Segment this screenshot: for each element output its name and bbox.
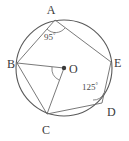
degree-symbol-D: ° <box>96 82 99 88</box>
radius-OB <box>17 63 64 68</box>
angle-arc-at-O <box>52 67 59 80</box>
point-label-A: A <box>47 3 56 17</box>
chord-AE <box>55 20 111 62</box>
center-point-marker <box>62 66 66 70</box>
radius-OC <box>47 68 64 114</box>
geometry-canvas: A B C D E O 95° 125° <box>0 0 129 141</box>
point-label-D: D <box>107 105 116 119</box>
angle-label-A: 95° <box>44 32 56 42</box>
chord-BC <box>17 63 47 114</box>
angle-arc-at-D <box>93 93 104 100</box>
point-label-C: C <box>42 123 50 137</box>
geometry-figure: A B C D E O 95° 125° <box>0 0 129 141</box>
angle-value-D: 125 <box>82 82 96 92</box>
angle-label-D: 125° <box>82 82 99 92</box>
point-label-E: E <box>114 56 121 70</box>
center-label-O: O <box>69 62 78 76</box>
chord-CD <box>47 103 102 114</box>
point-label-B: B <box>7 57 15 71</box>
